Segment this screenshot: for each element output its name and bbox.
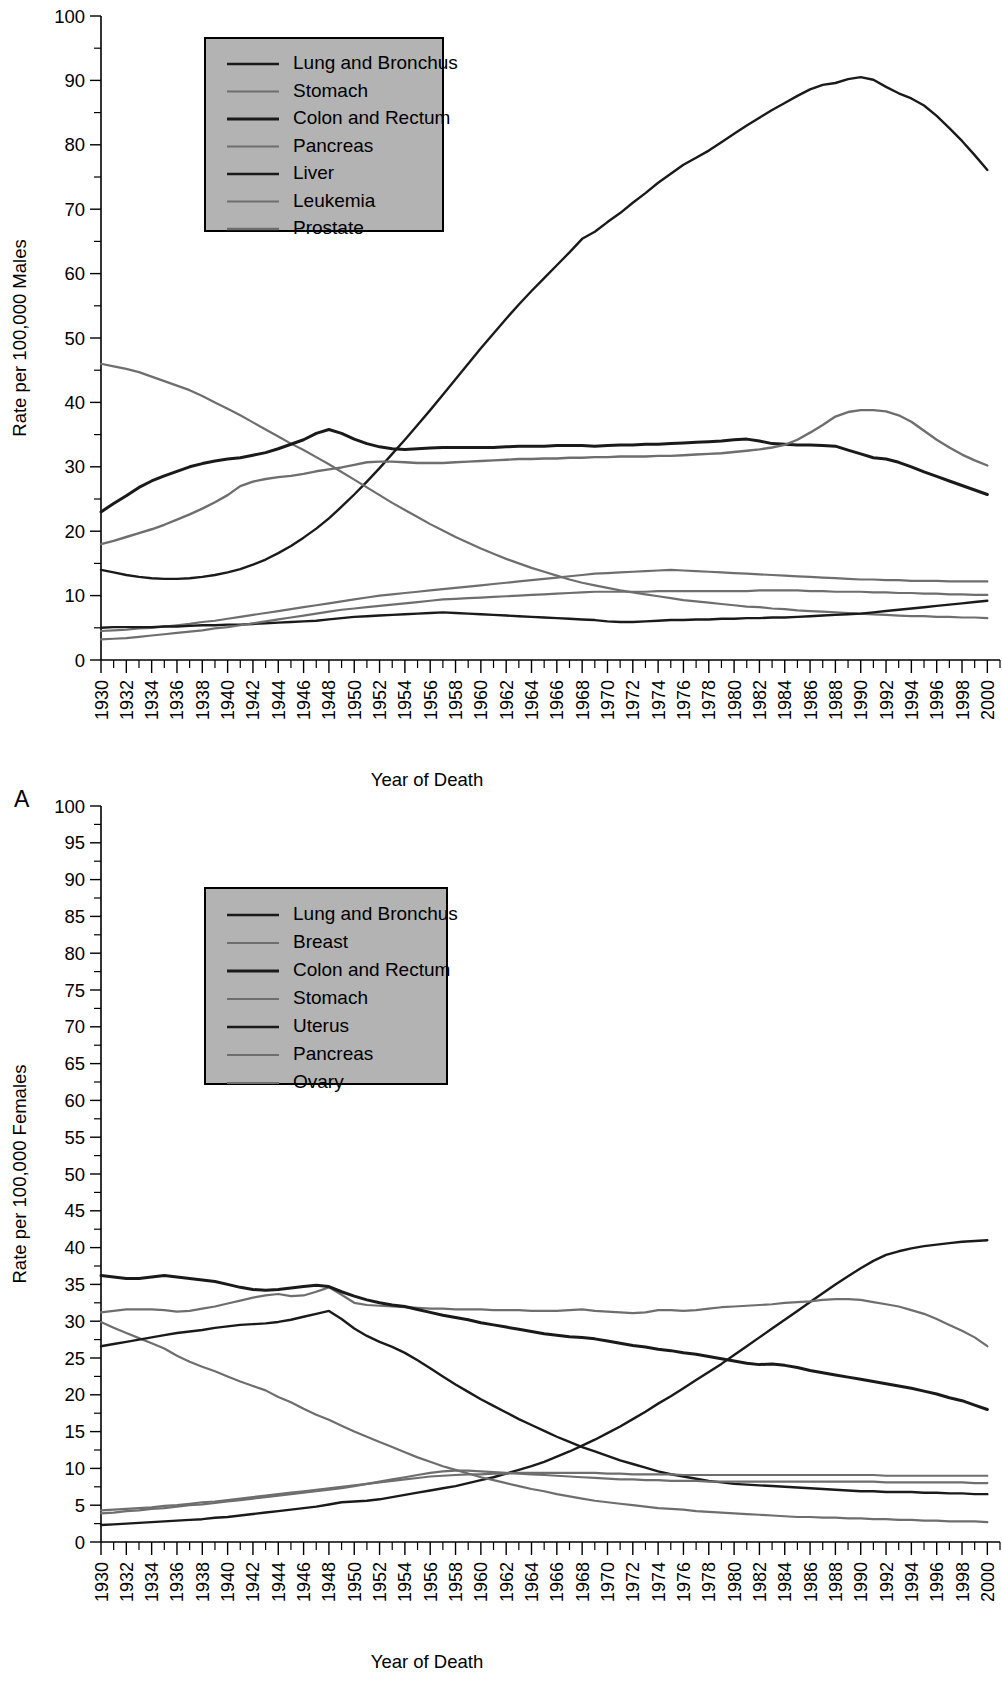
y-tick-label: 50: [64, 328, 85, 349]
legend-label: Uterus: [293, 1015, 349, 1036]
x-tick-label: 1940: [218, 680, 238, 720]
legend-label: Lung and Bronchus: [293, 52, 458, 73]
legend-label: Leukemia: [293, 190, 376, 211]
x-tick-label: 1946: [294, 680, 314, 720]
x-tick-label: 1960: [471, 1562, 491, 1602]
y-tick-label: 90: [64, 70, 85, 91]
x-tick-label: 1974: [649, 680, 669, 720]
figure-page: 0102030405060708090100Rate per 100,000 M…: [0, 0, 1002, 1693]
x-tick-label: 1938: [193, 1562, 213, 1602]
legend-label: Prostate: [293, 217, 364, 238]
series-line-uterus: [101, 1311, 987, 1494]
x-tick-label: 1944: [269, 680, 289, 720]
x-tick-label: 1992: [877, 1562, 897, 1602]
x-tick-label: 1972: [623, 680, 643, 720]
x-tick-label: 1936: [167, 1562, 187, 1602]
series-line-pancreas: [101, 570, 987, 631]
panel-a: 0102030405060708090100Rate per 100,000 M…: [0, 0, 1002, 790]
x-tick-label: 1982: [750, 680, 770, 720]
x-tick-label: 1970: [598, 1562, 618, 1602]
y-tick-label: 70: [64, 1016, 85, 1037]
x-tick-label: 1950: [345, 680, 365, 720]
x-tick-label: 1942: [243, 680, 263, 720]
x-tick-label: 1930: [92, 1562, 112, 1602]
x-tick-label: 1998: [953, 680, 973, 720]
x-tick-label: 1964: [522, 1562, 542, 1602]
x-axis-title: Year of Death: [371, 1651, 483, 1670]
y-tick-label: 90: [64, 869, 85, 890]
legend-label: Colon and Rectum: [293, 959, 450, 980]
y-tick-group: 0510152025303540455055606570758085909510…: [54, 796, 101, 1553]
x-tick-label: 1990: [851, 1562, 871, 1602]
y-tick-label: 100: [54, 6, 85, 27]
y-tick-label: 40: [64, 1237, 85, 1258]
x-tick-label: 1980: [725, 1562, 745, 1602]
x-tick-label: 1972: [623, 1562, 643, 1602]
legend-label: Liver: [293, 162, 335, 183]
x-tick-label: 1956: [421, 1562, 441, 1602]
x-tick-label: 1940: [218, 1562, 238, 1602]
series-line-liver: [101, 601, 987, 628]
y-tick-label: 25: [64, 1348, 85, 1369]
x-tick-label: 1978: [699, 1562, 719, 1602]
y-tick-label: 60: [64, 1090, 85, 1111]
chart-males: 0102030405060708090100Rate per 100,000 M…: [0, 0, 1002, 790]
x-tick-label: 1992: [877, 680, 897, 720]
y-tick-label: 0: [75, 650, 85, 671]
x-tick-label: 1942: [243, 1562, 263, 1602]
x-tick-label: 2000: [978, 1562, 998, 1602]
x-tick-label: 1936: [167, 680, 187, 720]
x-tick-label: 1950: [345, 1562, 365, 1602]
y-tick-label: 60: [64, 263, 85, 284]
legend: Lung and BronchusStomachColon and Rectum…: [205, 38, 458, 238]
x-tick-label: 1980: [725, 680, 745, 720]
legend-label: Pancreas: [293, 1043, 373, 1064]
series-line-colon-and-rectum: [101, 429, 987, 511]
x-tick-label: 1934: [142, 1562, 162, 1602]
x-tick-label: 1966: [547, 680, 567, 720]
x-tick-label: 1934: [142, 680, 162, 720]
x-tick-label: 1932: [117, 680, 137, 720]
series-line-prostate: [101, 410, 987, 544]
x-tick-label: 1988: [826, 1562, 846, 1602]
x-tick-label: 1946: [294, 1562, 314, 1602]
x-tick-label: 1978: [699, 680, 719, 720]
x-tick-label: 1962: [497, 1562, 517, 1602]
y-tick-label: 10: [64, 1458, 85, 1479]
x-tick-label: 1968: [573, 680, 593, 720]
y-tick-label: 35: [64, 1274, 85, 1295]
x-tick-label: 1948: [319, 680, 339, 720]
x-tick-label: 1974: [649, 1562, 669, 1602]
x-tick-label: 1982: [750, 1562, 770, 1602]
legend-label: Breast: [293, 931, 349, 952]
x-tick-label: 2000: [978, 680, 998, 720]
x-tick-label: 1986: [801, 680, 821, 720]
y-tick-label: 10: [64, 585, 85, 606]
y-tick-label: 20: [64, 521, 85, 542]
legend-label: Stomach: [293, 80, 368, 101]
x-tick-label: 1956: [421, 680, 441, 720]
y-tick-label: 30: [64, 456, 85, 477]
x-tick-label: 1962: [497, 680, 517, 720]
x-tick-label: 1970: [598, 680, 618, 720]
x-tick-label: 1948: [319, 1562, 339, 1602]
x-tick-label: 1932: [117, 1562, 137, 1602]
series-line-breast: [101, 1287, 987, 1346]
x-tick-label: 1988: [826, 680, 846, 720]
x-tick-label: 1958: [446, 680, 466, 720]
x-tick-label: 1994: [902, 1562, 922, 1602]
x-tick-label: 1958: [446, 1562, 466, 1602]
x-tick-label: 1998: [953, 1562, 973, 1602]
x-tick-label: 1996: [927, 1562, 947, 1602]
panel-b: 0510152025303540455055606570758085909510…: [0, 790, 1002, 1670]
x-tick-label: 1968: [573, 1562, 593, 1602]
x-tick-label: 1952: [370, 1562, 390, 1602]
x-tick-label: 1944: [269, 1562, 289, 1602]
x-tick-label: 1986: [801, 1562, 821, 1602]
x-tick-label: 1954: [395, 1562, 415, 1602]
legend: Lung and BronchusBreastColon and RectumS…: [205, 888, 458, 1092]
y-tick-label: 80: [64, 134, 85, 155]
y-tick-label: 80: [64, 943, 85, 964]
x-tick-label: 1984: [775, 1562, 795, 1602]
y-tick-label: 70: [64, 199, 85, 220]
